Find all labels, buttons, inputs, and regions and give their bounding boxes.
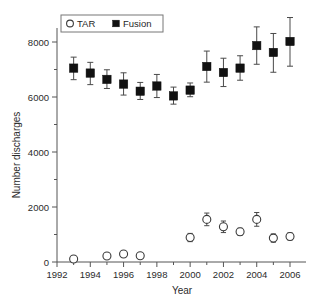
x-axis-title: Year [172,285,193,296]
datapoint [269,234,277,242]
y-axis: 02000400060008000 [28,28,57,268]
datapoint [203,213,211,226]
marker-filled-square [253,41,261,49]
x-tick-label: 2002 [213,269,234,280]
datapoint [236,56,244,80]
datapoint [69,57,77,80]
x-tick-label: 2004 [246,269,267,280]
datapoint [219,221,227,233]
datapoint [253,213,261,227]
marker-filled-square [86,69,94,77]
x-tick-label: 1994 [80,269,101,280]
chart-figure: 02000400060008000 1992199419961998200020… [0,0,312,300]
datapoint [119,73,127,95]
datapoint [120,250,128,258]
datapoint [136,82,144,99]
y-axis-title: Number discharges [11,112,22,199]
datapoint [153,74,161,97]
y-tick-label: 0 [44,257,49,268]
y-tick-label: 6000 [28,92,49,103]
marker-filled-square [219,68,227,76]
marker-open-circle [236,228,244,236]
datapoint [253,27,261,64]
marker-filled-square [169,92,177,100]
y-tick-label: 8000 [28,37,49,48]
marker-open-circle [120,250,128,258]
series-tar [70,213,294,263]
marker-open-circle [70,255,78,263]
x-tick-label: 1996 [113,269,134,280]
legend-marker-filled-square [113,20,120,27]
datapoint [136,252,144,260]
datapoint [186,233,194,241]
chart-legend: TARFusion [61,15,163,32]
marker-open-circle [286,232,294,240]
marker-filled-square [136,87,144,95]
x-tick-label: 2006 [279,269,300,280]
x-axis: 19921994199619982000200220042006 [46,262,306,280]
marker-open-circle [136,252,144,260]
datapoint [169,87,177,104]
datapoint [236,228,244,236]
marker-open-circle [253,215,261,223]
datapoint [286,18,294,67]
marker-filled-square [69,64,77,72]
datapoint [286,232,294,240]
datapoint [203,51,211,82]
datapoint [219,58,227,86]
x-tick-label: 2000 [180,269,201,280]
marker-open-circle [219,223,227,231]
marker-filled-square [269,48,277,56]
marker-filled-square [286,37,294,45]
marker-filled-square [203,62,211,70]
datapoint [103,252,111,260]
datapoint [70,255,78,263]
datapoint [103,70,111,89]
legend-marker-open-circle [67,20,74,27]
datapoint [269,33,277,72]
data-series-group [69,18,294,263]
marker-filled-square [186,86,194,94]
marker-open-circle [203,215,211,223]
discharges-scatter-chart: 02000400060008000 1992199419961998200020… [0,0,312,300]
marker-filled-square [103,75,111,83]
y-tick-label: 2000 [28,202,49,213]
marker-open-circle [103,252,111,260]
marker-filled-square [119,80,127,88]
datapoint [186,83,194,97]
legend-label-fusion: Fusion [123,18,152,29]
marker-open-circle [269,234,277,242]
datapoint [86,62,94,84]
marker-filled-square [236,64,244,72]
marker-filled-square [153,82,161,90]
marker-open-circle [186,234,194,242]
x-tick-label: 1992 [46,269,67,280]
y-tick-label: 4000 [28,147,49,158]
x-tick-label: 1998 [146,269,167,280]
legend-label-tar: TAR [77,18,95,29]
